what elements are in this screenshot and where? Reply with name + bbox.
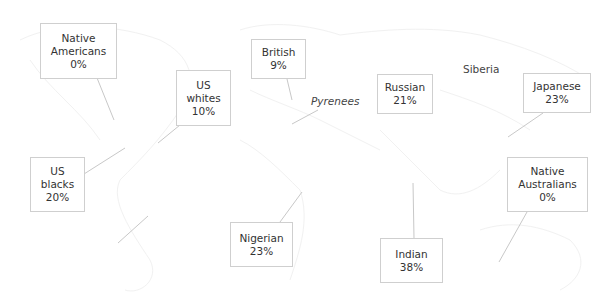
label-line: Russian bbox=[385, 81, 425, 94]
leader-pyrenees bbox=[292, 110, 318, 124]
label-value: 38% bbox=[400, 261, 423, 274]
leader-native-australians bbox=[499, 212, 527, 262]
label-line: Australians bbox=[518, 178, 577, 191]
label-line: Indian bbox=[395, 248, 427, 261]
label-japanese: Japanese 23% bbox=[523, 73, 591, 113]
label-value: 20% bbox=[46, 191, 69, 204]
label-native-americans: Native Americans 0% bbox=[40, 23, 117, 79]
label-line: British bbox=[262, 46, 296, 59]
place-pyrenees: Pyrenees bbox=[311, 95, 359, 107]
label-value: 23% bbox=[545, 93, 568, 106]
label-line: Native bbox=[62, 32, 96, 45]
leader-british bbox=[287, 79, 292, 100]
leader-misc bbox=[118, 216, 148, 243]
label-line: Japanese bbox=[533, 80, 581, 93]
label-value: 10% bbox=[192, 105, 215, 118]
label-line: whites bbox=[186, 92, 220, 105]
label-value: 0% bbox=[539, 191, 556, 204]
label-value: 9% bbox=[270, 59, 287, 72]
label-native-australians: Native Australians 0% bbox=[507, 157, 588, 212]
place-siberia: Siberia bbox=[463, 63, 499, 75]
label-indian: Indian 38% bbox=[380, 238, 443, 283]
label-british: British 9% bbox=[251, 39, 306, 79]
label-us-blacks: US blacks 20% bbox=[30, 157, 85, 212]
label-line: blacks bbox=[41, 178, 74, 191]
leader-indian bbox=[413, 183, 414, 238]
leader-us-blacks bbox=[84, 148, 125, 174]
label-nigerian: Nigerian 23% bbox=[230, 222, 293, 267]
label-russian: Russian 21% bbox=[377, 74, 433, 114]
label-line: Nigerian bbox=[239, 232, 283, 245]
label-us-whites: US whites 10% bbox=[176, 70, 231, 126]
label-line: US bbox=[196, 79, 210, 92]
leader-us-whites bbox=[158, 125, 180, 143]
label-value: 21% bbox=[393, 94, 416, 107]
label-line: Native bbox=[531, 165, 565, 178]
label-value: 23% bbox=[250, 245, 273, 258]
label-value: 0% bbox=[70, 58, 87, 71]
leader-japanese bbox=[508, 113, 543, 137]
label-line: US bbox=[50, 165, 64, 178]
label-line: Americans bbox=[51, 45, 106, 58]
leader-nigerian bbox=[280, 192, 302, 222]
